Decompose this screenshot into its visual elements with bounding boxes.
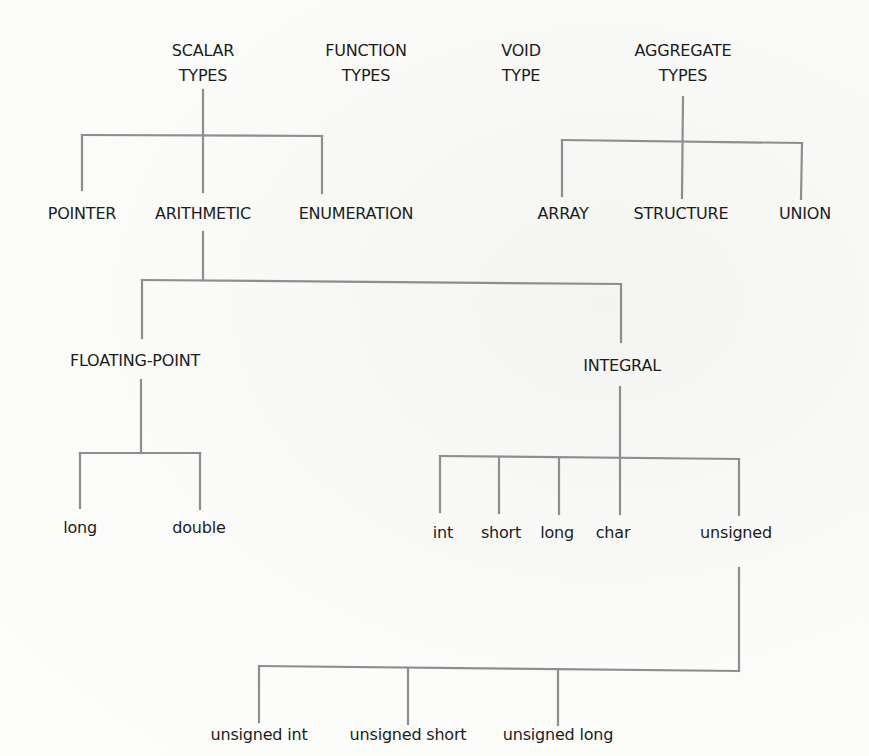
- node-label: TYPES: [325, 63, 407, 88]
- node-enumeration: ENUMERATION: [299, 201, 414, 226]
- node-unsigned-int: unsigned int: [211, 722, 308, 747]
- node-int: int: [433, 520, 453, 545]
- node-integral: INTEGRAL: [583, 353, 661, 378]
- node-function-types: FUNCTION TYPES: [325, 38, 407, 88]
- node-label: AGGREGATE: [635, 38, 732, 63]
- node-short: short: [481, 520, 521, 545]
- tree-connectors: [0, 0, 869, 756]
- node-unsigned: unsigned: [700, 520, 772, 545]
- node-array: ARRAY: [537, 201, 588, 226]
- diagram-canvas: SCALAR TYPES FUNCTION TYPES VOID TYPE AG…: [0, 0, 869, 756]
- node-union: UNION: [779, 201, 831, 226]
- node-void-type: VOID TYPE: [501, 38, 541, 88]
- node-label: FUNCTION: [325, 38, 407, 63]
- node-unsigned-short: unsigned short: [350, 722, 467, 747]
- node-label: TYPE: [501, 63, 541, 88]
- node-arithmetic: ARITHMETIC: [155, 201, 251, 226]
- node-label: SCALAR: [172, 38, 234, 63]
- node-char: char: [596, 520, 631, 545]
- node-floating-point: FLOATING-POINT: [70, 348, 200, 373]
- node-long-int: long: [540, 520, 574, 545]
- node-label: VOID: [501, 38, 541, 63]
- node-double: double: [172, 515, 225, 540]
- node-label: TYPES: [172, 63, 234, 88]
- node-long-float: long: [63, 515, 97, 540]
- node-pointer: POINTER: [48, 201, 117, 226]
- node-unsigned-long: unsigned long: [503, 722, 613, 747]
- node-structure: STRUCTURE: [634, 201, 729, 226]
- node-scalar-types: SCALAR TYPES: [172, 38, 234, 88]
- node-aggregate-types: AGGREGATE TYPES: [635, 38, 732, 88]
- node-label: TYPES: [635, 63, 732, 88]
